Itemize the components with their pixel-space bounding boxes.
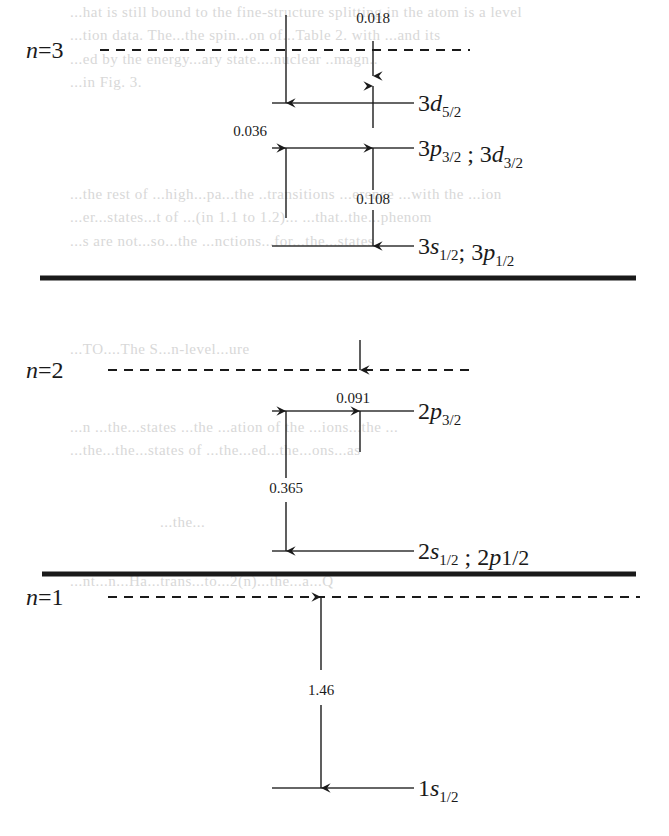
shell-dashed-lines: n=3n=2n=1	[26, 37, 640, 610]
splitting-value: 0.036	[233, 123, 267, 139]
splitting-value: 0.018	[356, 10, 390, 26]
splitting-value: 0.091	[336, 390, 370, 406]
level-label-3s12-3p12: 3s1/2; 3p1/2	[418, 233, 514, 269]
shell-label-n1: n=1	[26, 584, 64, 610]
level-label-2s12-2p12: 2s1/2 ; 2p1/2	[418, 538, 529, 570]
level-label-2p32: 2p3/2	[418, 398, 461, 428]
shell-label-n2: n=2	[26, 357, 64, 383]
shell-separators	[40, 278, 636, 574]
splitting-values: 0.0180.0360.1080.0910.3651.46	[233, 10, 390, 698]
level-label-3p32-3d32: 3p3/2 ; 3d3/2	[418, 135, 523, 171]
shell-label-n3: n=3	[26, 37, 64, 63]
splitting-value: 0.365	[269, 480, 303, 496]
splitting-value: 1.46	[308, 682, 335, 698]
level-label-1s12: 1s1/2	[418, 775, 459, 805]
level-label-3d52: 3d5/2	[418, 90, 461, 120]
energy-level-diagram: n=3n=2n=1 3d5/23p3/2 ; 3d3/23s1/2; 3p1/2…	[0, 0, 669, 836]
splitting-value: 0.108	[356, 191, 390, 207]
